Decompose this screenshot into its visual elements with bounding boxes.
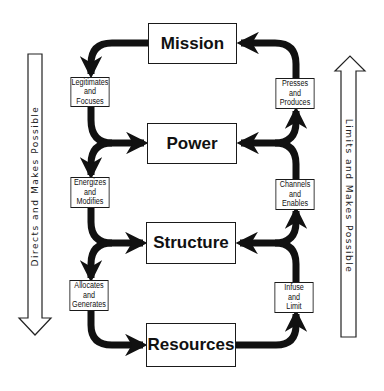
label-line: Produces bbox=[280, 98, 311, 108]
infuse-limit-box: Infuse and Limit bbox=[274, 282, 313, 313]
presses-produces-box: Presses and Produces bbox=[275, 78, 314, 109]
left-arrow-text: Directs and Makes Possible bbox=[30, 106, 40, 267]
label-line: Enables bbox=[282, 199, 308, 209]
legitimates-focuses-box: Legitimates and Focuses bbox=[70, 77, 109, 107]
resources-box: Resources bbox=[146, 323, 236, 367]
power-label: Power bbox=[166, 134, 217, 154]
connector-allocates-to-resources bbox=[91, 310, 143, 345]
channels-enables-box: Channels and Enables bbox=[275, 179, 314, 210]
structure-label: Structure bbox=[153, 233, 229, 253]
right-arrow-text: Limits and Makes Possible bbox=[344, 119, 354, 274]
connector-power-to-presses bbox=[275, 111, 296, 143]
connector-channels-to-power bbox=[241, 143, 296, 179]
connector-energizes-to-structure bbox=[91, 207, 143, 243]
mission-box: Mission bbox=[148, 23, 237, 64]
connector-legitimates-to-power bbox=[91, 106, 144, 143]
connector-resources-to-infuse bbox=[236, 314, 296, 345]
connector-mission-to-legitimates bbox=[91, 43, 148, 74]
label-line: Generates bbox=[72, 300, 106, 310]
label-line: Limit bbox=[286, 302, 301, 312]
energizes-modifies-box: Energizes and Modifies bbox=[70, 177, 109, 208]
connector-presses-to-mission bbox=[241, 43, 296, 78]
resources-label: Resources bbox=[148, 335, 235, 355]
connector-structure-to-channels bbox=[275, 211, 296, 243]
label-line: Focuses bbox=[76, 97, 103, 107]
allocates-generates-box: Allocates and Generates bbox=[69, 280, 108, 311]
structure-box: Structure bbox=[146, 222, 236, 264]
connector-structure-to-allocates bbox=[91, 243, 112, 278]
mission-label: Mission bbox=[161, 34, 224, 54]
connector-infuse-to-structure bbox=[240, 243, 296, 282]
power-box: Power bbox=[147, 123, 237, 164]
connector-power-to-energizes bbox=[91, 143, 112, 175]
label-line: Modifies bbox=[77, 197, 104, 207]
